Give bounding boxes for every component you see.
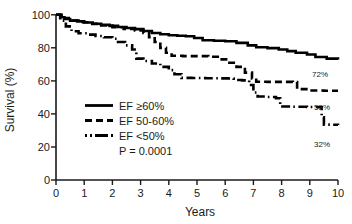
x-tick-label-8: 8 <box>279 187 285 199</box>
y-axis-title: Survival (%) <box>3 68 17 133</box>
legend-label-ef-50-60: EF 50-60% <box>119 115 174 127</box>
y-tick-label-60: 60 <box>38 75 50 87</box>
x-tick-label-3: 3 <box>138 187 144 199</box>
y-tick-label-0: 0 <box>44 174 50 186</box>
endpoint-label-72: 72% <box>312 70 328 79</box>
y-tick-label-80: 80 <box>38 42 50 54</box>
x-tick-label-9: 9 <box>307 187 313 199</box>
x-tick-label-1: 1 <box>81 187 87 199</box>
x-tick-label-2: 2 <box>109 187 115 199</box>
legend-label-ef-lt-50: EF <50% <box>119 130 165 142</box>
survival-chart-figure: Survival (%) 100 80 60 40 20 0 <box>0 0 352 224</box>
y-tick-label-100: 100 <box>32 9 50 21</box>
x-tick-label-6: 6 <box>222 187 228 199</box>
x-tick-label-10: 10 <box>332 187 344 199</box>
legend-label-ef-ge-60: EF ≥60% <box>119 100 164 112</box>
legend-pvalue: P = 0.0001 <box>119 145 172 157</box>
y-tick-label-20: 20 <box>38 141 50 153</box>
endpoint-label-53: 53% <box>314 103 330 112</box>
x-axis-title: Years <box>185 205 215 219</box>
endpoint-label-32: 32% <box>314 140 330 149</box>
chart-svg: Survival (%) 100 80 60 40 20 0 <box>0 0 352 224</box>
x-tick-label-0: 0 <box>53 187 59 199</box>
y-tick-label-40: 40 <box>38 108 50 120</box>
x-tick-label-5: 5 <box>194 187 200 199</box>
x-tick-label-4: 4 <box>166 187 172 199</box>
x-tick-label-7: 7 <box>250 187 256 199</box>
